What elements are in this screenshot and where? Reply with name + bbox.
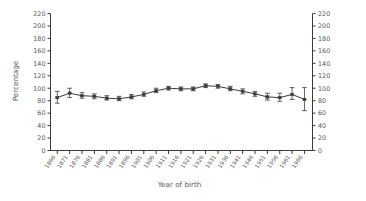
data-point-marker [266,96,269,99]
x-tick-label: 1906 [142,154,155,169]
x-tick-label: 1951 [254,154,267,169]
y-tick-label-right: 20 [318,134,326,142]
x-tick-label: 1876 [68,154,81,169]
data-point-marker [117,98,120,101]
data-point-marker [130,96,133,99]
x-tick-label: 1901 [130,154,143,169]
y-tick-label-left: 180 [33,35,45,43]
x-tick-label: 1961 [278,154,291,169]
x-tick-label: 1921 [179,154,192,169]
y-tick-label-left: 220 [33,10,45,18]
data-point-marker [241,90,244,93]
x-tick-label: 1936 [217,154,230,169]
y-tick-label-left: 100 [33,85,45,93]
data-point-marker [278,96,281,99]
data-point-marker [216,85,219,88]
data-point-marker [80,94,83,97]
data-point-marker [105,97,108,100]
x-tick-label: 1966 [291,154,304,169]
x-tick-label: 1871 [56,154,69,169]
x-tick-label: 1916 [167,154,180,169]
y-tick-label-right: 60 [318,109,326,117]
y-tick-label-right: 200 [318,22,330,30]
data-point-marker [93,95,96,98]
y-tick-label-right: 140 [318,60,330,68]
x-tick-label: 1941 [229,154,242,169]
x-axis-title: Year of birth [157,180,202,189]
data-point-marker [253,93,256,96]
y-axis-title: Percentage [11,60,20,101]
data-point-marker [229,88,232,91]
data-point-marker [142,93,145,96]
y-tick-label-left: 200 [33,22,45,30]
x-tick-label: 1896 [118,154,131,169]
data-point-marker [303,98,306,101]
x-tick-label: 1881 [81,154,94,169]
x-tick-label: 1891 [105,154,118,169]
x-tick-label: 1866 [44,154,57,169]
y-tick-label-left: 20 [37,134,45,142]
chart-figure: 0204060801001201401601802002200204060801… [0,0,366,201]
x-tick-label: 1926 [192,154,205,169]
data-point-marker [56,96,59,99]
y-tick-label-left: 40 [37,122,45,130]
data-point-marker [167,87,170,90]
data-point-marker [68,92,71,95]
data-point-marker [291,93,294,96]
y-tick-label-right: 100 [318,85,330,93]
y-tick-label-right: 80 [318,97,326,105]
y-tick-label-left: 160 [33,47,45,55]
y-tick-label-right: 180 [318,35,330,43]
y-tick-label-right: 40 [318,122,326,130]
data-point-marker [204,84,207,87]
y-tick-label-left: 60 [37,109,45,117]
line-chart-with-error-bars: 0204060801001201401601802002200204060801… [0,0,366,201]
data-point-marker [155,89,158,92]
x-tick-label: 1946 [241,154,254,169]
y-tick-label-right: 160 [318,47,330,55]
x-tick-label: 1956 [266,154,279,169]
y-tick-label-left: 0 [41,147,45,155]
y-tick-label-left: 140 [33,60,45,68]
y-tick-label-left: 120 [33,72,45,80]
x-tick-label: 1911 [155,154,168,169]
data-point-marker [179,88,182,91]
data-point-marker [192,88,195,91]
x-tick-label: 1931 [204,154,217,169]
y-tick-label-right: 0 [318,147,322,155]
y-tick-label-left: 80 [37,97,45,105]
y-tick-label-right: 120 [318,72,330,80]
y-tick-label-right: 220 [318,10,330,18]
x-tick-label: 1886 [93,154,106,169]
